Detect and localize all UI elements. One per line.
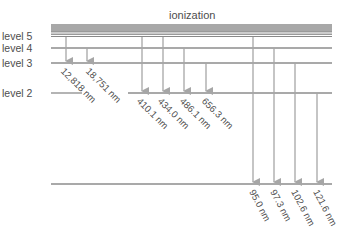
ionization-label: ionization bbox=[169, 10, 215, 21]
level-5-label: level 5 bbox=[2, 31, 32, 42]
energy-level-diagram: ionization level 5 level 4 level 3 level… bbox=[0, 0, 344, 239]
level-4-label: level 4 bbox=[2, 43, 32, 54]
level-3-label: level 3 bbox=[2, 58, 32, 69]
level-2-label: level 2 bbox=[2, 88, 32, 99]
ionization-band bbox=[51, 24, 332, 37]
